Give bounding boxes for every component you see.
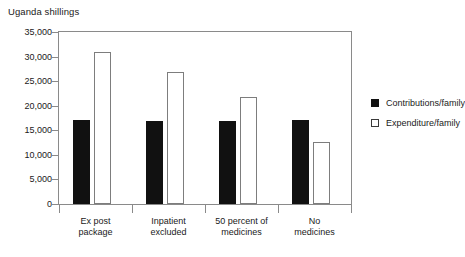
y-axis-tick-label: 30,000 xyxy=(6,52,52,62)
legend-swatch-icon xyxy=(371,99,379,107)
bar-group xyxy=(59,32,132,204)
y-axis-tick-label: 15,000 xyxy=(6,125,52,135)
y-axis-tick-label: 25,000 xyxy=(6,76,52,86)
chart-legend: Contributions/familyExpenditure/family xyxy=(371,98,459,138)
bar-group xyxy=(205,32,278,204)
bar-contributions xyxy=(146,121,163,204)
legend-item: Contributions/family xyxy=(371,98,459,108)
bar-contributions xyxy=(292,120,309,204)
legend-swatch-icon xyxy=(371,119,379,127)
legend-item: Expenditure/family xyxy=(371,118,459,128)
x-axis-tick-mark xyxy=(59,205,60,213)
x-axis-category-label: Nomedicines xyxy=(272,216,358,238)
bars-layer xyxy=(59,32,351,204)
bar-group xyxy=(278,32,351,204)
legend-item-label: Expenditure/family xyxy=(386,118,460,128)
x-axis-tick-mark xyxy=(278,205,279,213)
legend-item-label: Contributions/family xyxy=(386,98,465,108)
bar-expenditure xyxy=(240,97,257,204)
y-axis-tick-label: 20,000 xyxy=(6,101,52,111)
y-axis-title: Uganda shillings xyxy=(8,6,79,17)
bar-expenditure xyxy=(313,142,330,204)
y-axis-tick-label: 35,000 xyxy=(6,27,52,37)
x-axis-tick-mark xyxy=(205,205,206,213)
x-axis-category-label-line: medicines xyxy=(272,227,358,238)
bar-contributions xyxy=(219,121,236,204)
bar-group xyxy=(132,32,205,204)
x-axis-tick-mark xyxy=(132,205,133,213)
y-axis-tick-label: 5,000 xyxy=(6,174,52,184)
x-axis-tick-mark xyxy=(351,205,352,213)
y-axis-tick-label: 0 xyxy=(6,199,52,209)
bar-expenditure xyxy=(167,72,184,204)
bar-contributions xyxy=(73,120,90,204)
bar-expenditure xyxy=(94,52,111,204)
y-axis-tick-label: 10,000 xyxy=(6,150,52,160)
x-axis-category-label-line: No xyxy=(272,216,358,227)
